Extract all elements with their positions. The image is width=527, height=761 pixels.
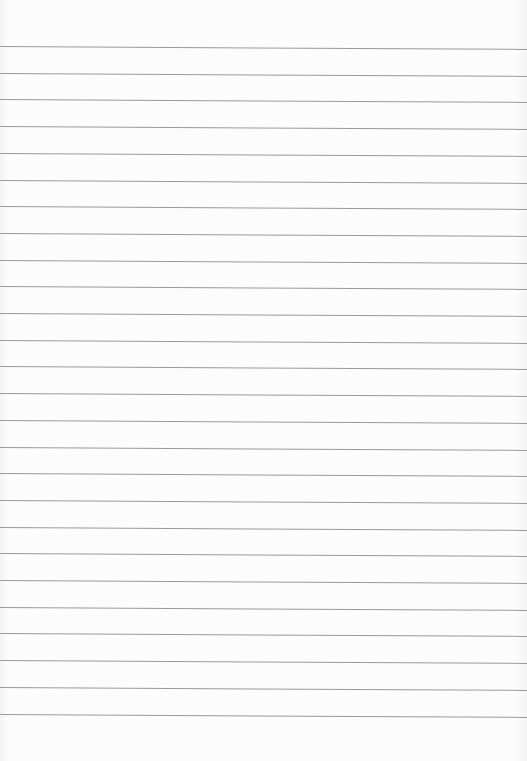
ruled-line [0,607,527,611]
ruled-line [0,447,527,451]
ruled-line [0,206,527,210]
ruled-line [0,286,527,290]
ruled-line [0,553,527,557]
ruled-line [0,714,527,718]
ruled-line [0,126,527,130]
ruled-line [0,46,527,50]
ruled-line [0,633,527,637]
ruled-line [0,313,527,317]
ruled-line [0,180,527,184]
ruled-line [0,500,527,504]
ruled-line [0,420,527,424]
ruled-line [0,366,527,370]
ruled-line [0,260,527,264]
ruled-line [0,340,527,344]
ruled-line [0,99,527,103]
lined-paper-sheet [0,0,527,761]
ruled-line [0,527,527,531]
ruled-line [0,473,527,477]
ruled-line [0,233,527,237]
ruled-line [0,660,527,664]
ruled-line [0,580,527,584]
ruled-line [0,73,527,77]
ruled-line [0,393,527,397]
ruled-line [0,687,527,691]
ruled-line [0,153,527,157]
